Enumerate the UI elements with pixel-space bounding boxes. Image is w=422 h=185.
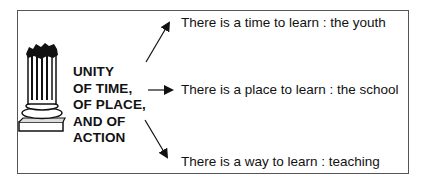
- statement-place: There is a place to learn : the school: [181, 82, 399, 97]
- statement-way: There is a way to learn : teaching: [181, 154, 380, 169]
- arrow-down-right: [145, 120, 167, 157]
- arrow-up-right: [146, 23, 169, 62]
- statement-time: There is a time to learn : the youth: [181, 15, 386, 30]
